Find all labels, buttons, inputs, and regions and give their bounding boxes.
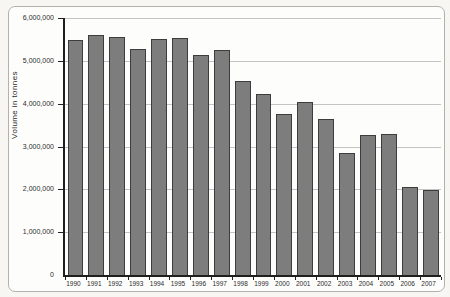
bar-slot [128,18,149,275]
y-tick-mark [58,189,63,190]
bar-2002 [318,119,334,275]
bar-1997 [214,50,230,275]
bar-slot [86,18,107,275]
bar-2003 [339,153,355,275]
x-tick-label: 1994 [147,280,168,287]
bar-1993 [130,49,146,275]
bar-1995 [172,38,188,275]
x-tick-label: 1998 [230,280,251,287]
x-tick-label: 1999 [251,280,272,287]
bar-slot [399,18,420,275]
bar-slot [274,18,295,275]
y-tick-label: 1,000,000 [9,228,54,235]
bar-slot [253,18,274,275]
x-tick-label: 1993 [126,280,147,287]
bar-2006 [402,187,418,275]
bar-series [65,18,441,275]
bar-slot [65,18,86,275]
bar-slot [232,18,253,275]
bar-2000 [276,114,292,275]
bar-slot [420,18,441,275]
y-tick-mark [58,104,63,105]
y-tick-label: 6,000,000 [9,14,54,21]
bar-slot [211,18,232,275]
y-tick-mark [58,18,63,19]
x-tick-mark [441,277,442,280]
bar-1991 [88,35,104,275]
bar-2001 [297,102,313,275]
bar-slot [190,18,211,275]
bar-slot [316,18,337,275]
bar-1999 [256,94,272,275]
x-tick-label: 2002 [314,280,335,287]
bar-1990 [68,40,84,275]
bar-slot [295,18,316,275]
bar-slot [337,18,358,275]
y-tick-mark [58,61,63,62]
y-tick-label: 0 [9,271,54,278]
y-tick-label: 5,000,000 [9,57,54,64]
x-tick-label: 2007 [418,280,439,287]
x-tick-label: 1991 [84,280,105,287]
bar-2004 [360,135,376,275]
bar-slot [169,18,190,275]
x-tick-label: 2005 [376,280,397,287]
y-tick-label: 2,000,000 [9,185,54,192]
x-tick-label: 2003 [335,280,356,287]
chart-figure: Volume in tonnes 01,000,0002,000,0003,00… [8,6,445,292]
x-tick-label: 2001 [293,280,314,287]
bar-2005 [381,134,397,275]
x-tick-label: 2004 [355,280,376,287]
y-tick-label: 4,000,000 [9,100,54,107]
scanned-chart-page: Volume in tonnes 01,000,0002,000,0003,00… [0,0,450,297]
bar-slot [357,18,378,275]
y-tick-label: 3,000,000 [9,143,54,150]
bar-1996 [193,55,209,275]
bar-1992 [109,37,125,275]
bar-slot [378,18,399,275]
x-tick-label: 2006 [397,280,418,287]
y-tick-mark [58,232,63,233]
x-axis-tick-labels: 1990199119921993199419951996199719981999… [63,280,439,287]
x-tick-label: 1992 [105,280,126,287]
y-tick-mark [58,147,63,148]
x-tick-label: 1995 [167,280,188,287]
x-tick-label: 2000 [272,280,293,287]
x-tick-label: 1997 [209,280,230,287]
x-tick-label: 1990 [63,280,84,287]
bar-1994 [151,39,167,275]
plot-area [63,18,441,277]
bar-slot [149,18,170,275]
bar-1998 [235,81,251,275]
bar-slot [107,18,128,275]
x-tick-label: 1996 [188,280,209,287]
bar-2007 [423,190,439,275]
